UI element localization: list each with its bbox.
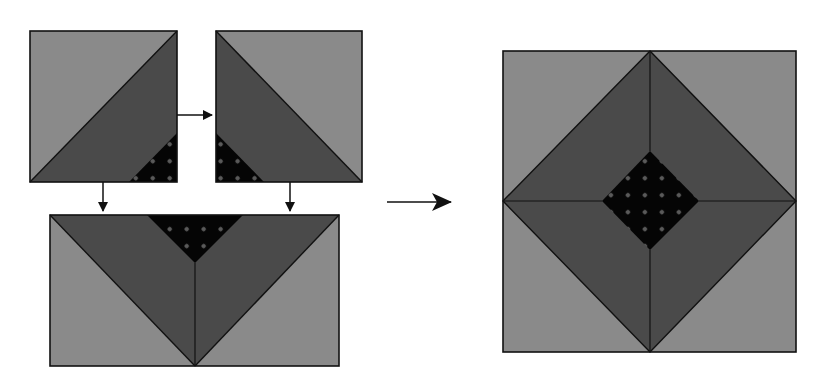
finished-block	[503, 51, 796, 352]
unit-b	[216, 31, 362, 182]
quilt-assembly-diagram	[0, 0, 823, 381]
unit-ab	[50, 215, 339, 366]
unit-a	[30, 31, 177, 182]
